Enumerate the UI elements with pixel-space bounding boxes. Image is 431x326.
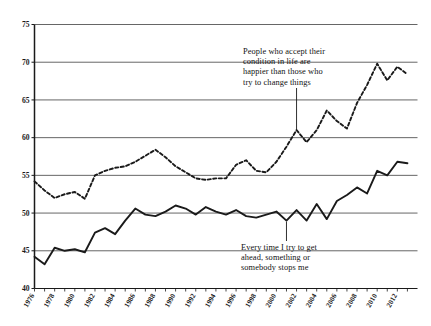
svg-text:1988: 1988 (143, 292, 157, 309)
y-axis-tick-labels: 4045505560657075 (22, 20, 30, 293)
svg-text:1996: 1996 (224, 292, 238, 309)
svg-text:1990: 1990 (163, 292, 177, 309)
data-series-layer (35, 64, 408, 265)
svg-text:1986: 1986 (123, 292, 137, 309)
svg-text:1992: 1992 (183, 292, 197, 309)
line-chart-plot: 4045505560657075 19761978198019821984198… (0, 0, 431, 326)
svg-text:2004: 2004 (304, 292, 318, 309)
svg-text:2010: 2010 (365, 292, 379, 309)
svg-text:60: 60 (22, 133, 30, 142)
chart-container: 4045505560657075 19761978198019821984198… (0, 0, 431, 326)
svg-text:1998: 1998 (244, 292, 258, 309)
svg-text:65: 65 (22, 96, 30, 105)
annotation-try-to-get-ahead: Every time I try to get ahead, something… (241, 243, 357, 274)
svg-text:1980: 1980 (62, 292, 76, 309)
svg-text:1984: 1984 (103, 292, 117, 309)
svg-text:1976: 1976 (22, 292, 36, 309)
svg-text:1978: 1978 (42, 292, 56, 309)
svg-text:2008: 2008 (345, 292, 359, 309)
svg-text:1994: 1994 (204, 292, 218, 309)
annotation-accept-condition: People who accept their condition in lif… (243, 47, 361, 88)
svg-text:2006: 2006 (324, 292, 338, 309)
svg-text:2002: 2002 (284, 292, 298, 309)
svg-text:50: 50 (22, 209, 30, 218)
svg-text:70: 70 (22, 58, 30, 67)
svg-text:45: 45 (22, 246, 30, 255)
svg-text:2012: 2012 (385, 292, 399, 309)
svg-text:75: 75 (22, 20, 30, 29)
x-axis-tick-labels: 1976197819801982198419861988199019921994… (22, 292, 399, 309)
svg-text:2000: 2000 (264, 292, 278, 309)
svg-text:55: 55 (22, 171, 30, 180)
svg-text:1982: 1982 (83, 292, 97, 309)
svg-text:40: 40 (22, 284, 30, 293)
